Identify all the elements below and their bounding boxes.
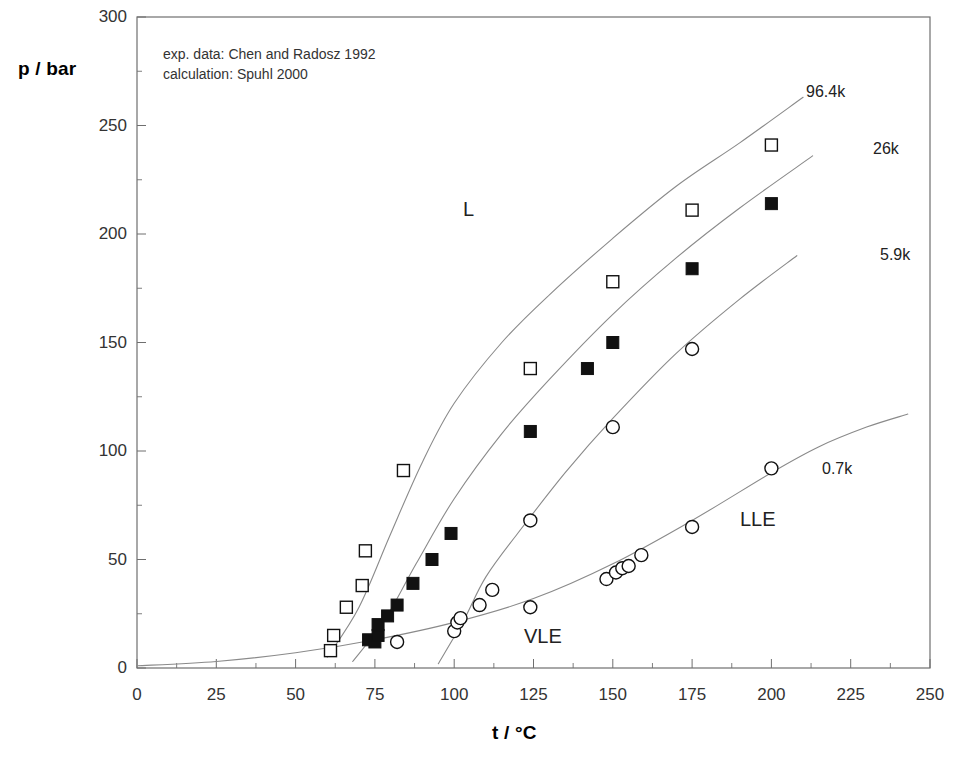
marker-open-square [356, 580, 368, 592]
curve-96.4k-curve [327, 97, 803, 657]
marker-open-circle [524, 514, 537, 527]
marker-open-circle [454, 612, 467, 625]
region-label-l: L [463, 198, 474, 221]
y-axis-title: p / bar [18, 58, 76, 80]
note-line-2: calculation: Spuhl 2000 [163, 64, 376, 84]
marker-open-square [324, 645, 336, 657]
curve-label-0-7k: 0.7k [822, 460, 852, 478]
y-tick-label: 50 [69, 550, 127, 570]
marker-open-circle [635, 549, 648, 562]
series-5-9k-and-0-7k [391, 343, 778, 649]
marker-open-circle [524, 601, 537, 614]
x-axis-title: t / °C [492, 722, 537, 744]
marker-open-square [328, 629, 340, 641]
y-tick-label: 100 [69, 441, 127, 461]
series-96-4k [324, 139, 777, 657]
marker-open-square [686, 204, 698, 216]
y-tick-label: 250 [69, 116, 127, 136]
curve-label-96-4k: 96.4k [806, 83, 845, 101]
marker-filled-square [445, 527, 457, 539]
curve-26k-curve [353, 156, 813, 662]
marker-filled-square [426, 554, 438, 566]
marker-open-circle [391, 635, 404, 648]
chart-figure: p / bar t / °C exp. data: Chen and Rados… [0, 0, 963, 763]
marker-open-square [359, 545, 371, 557]
x-tick-label: 75 [345, 685, 405, 705]
marker-open-square [524, 363, 536, 375]
marker-open-circle [686, 343, 699, 356]
series-26k [363, 198, 778, 648]
x-tick-label: 125 [504, 685, 564, 705]
axis-ticks [137, 17, 930, 668]
y-tick-label: 150 [69, 333, 127, 353]
y-tick-label: 0 [69, 658, 127, 678]
marker-filled-square [686, 263, 698, 275]
note-line-1: exp. data: Chen and Radosz 1992 [163, 44, 376, 64]
x-tick-label: 250 [900, 685, 960, 705]
plot-canvas [0, 0, 963, 763]
marker-open-square [765, 139, 777, 151]
marker-open-square [607, 276, 619, 288]
x-tick-label: 200 [741, 685, 801, 705]
marker-open-circle [486, 583, 499, 596]
marker-open-square [397, 465, 409, 477]
marker-filled-square [524, 425, 536, 437]
marker-open-circle [686, 520, 699, 533]
marker-filled-square [765, 198, 777, 210]
marker-filled-square [607, 337, 619, 349]
region-label-vle: VLE [524, 625, 562, 648]
x-tick-label: 50 [266, 685, 326, 705]
source-note: exp. data: Chen and Radosz 1992 calculat… [163, 44, 376, 84]
data-markers [324, 139, 777, 657]
marker-open-circle [606, 421, 619, 434]
curve-label-5-9k: 5.9k [880, 246, 910, 264]
x-tick-label: 225 [821, 685, 881, 705]
plot-frame [137, 17, 930, 668]
marker-open-circle [622, 560, 635, 573]
marker-filled-square [372, 629, 384, 641]
marker-filled-square [407, 577, 419, 589]
x-tick-label: 100 [424, 685, 484, 705]
curve-0.7k-curve [137, 414, 908, 666]
x-tick-label: 25 [186, 685, 246, 705]
x-tick-label: 150 [583, 685, 643, 705]
model-curves [137, 97, 908, 666]
x-tick-label: 0 [107, 685, 167, 705]
y-tick-label: 200 [69, 224, 127, 244]
marker-open-circle [473, 599, 486, 612]
marker-open-square [340, 601, 352, 613]
curve-5.9k-curve [438, 256, 797, 664]
marker-filled-square [581, 363, 593, 375]
marker-filled-square [391, 599, 403, 611]
marker-open-circle [765, 462, 778, 475]
x-tick-label: 175 [662, 685, 722, 705]
marker-filled-square [382, 610, 394, 622]
curve-label-26k: 26k [873, 140, 899, 158]
region-label-lle: LLE [740, 508, 776, 531]
y-tick-label: 300 [69, 7, 127, 27]
